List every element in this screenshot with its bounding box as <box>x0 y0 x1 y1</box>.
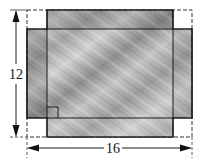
corner-cutout-top-left <box>28 11 46 28</box>
bottom-flap <box>47 118 173 137</box>
left-flap <box>27 29 47 118</box>
height-label: 12 <box>9 67 23 82</box>
net-cross-shape <box>27 10 192 137</box>
corner-cutout-bottom-left <box>28 119 46 136</box>
corner-cutout-bottom-right <box>174 119 191 136</box>
arrow-up-icon <box>13 10 20 22</box>
right-flap <box>173 29 192 118</box>
box-net-diagram: 12 16 <box>0 0 201 163</box>
corner-cutout-top-right <box>174 11 191 28</box>
arrow-down-icon <box>13 125 20 137</box>
width-label: 16 <box>106 141 120 156</box>
height-dimension: 12 <box>9 10 27 137</box>
arrow-right-icon <box>180 145 192 152</box>
width-dimension: 16 <box>27 137 192 158</box>
arrow-left-icon <box>27 145 39 152</box>
top-flap <box>47 10 173 29</box>
